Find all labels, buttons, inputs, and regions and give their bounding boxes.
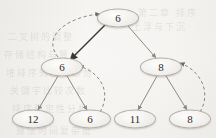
tree-node-root: 6	[97, 9, 139, 28]
tree-node-label: 11	[130, 114, 141, 125]
tree-node-n-rr: 8	[169, 110, 211, 129]
binary-tree-figure: 第二章 排序二叉树的调整存储结构与算法堆排序的基本思想关键字比较次数排序稳定性分…	[0, 0, 216, 138]
tree-node-n-rl: 11	[114, 110, 156, 129]
dashed-arrow-left-child-to-root	[53, 14, 100, 57]
tree-node-n-lr: 6	[69, 110, 111, 129]
tree-node-label: 6	[87, 114, 93, 125]
dashed-arrow-leaf8-to-right-child	[180, 63, 205, 112]
tree-node-n-ll: 12	[12, 110, 54, 129]
tree-node-label: 8	[187, 114, 193, 125]
tree-node-label: 6	[115, 13, 121, 24]
tree-node-n-l: 6	[41, 58, 83, 77]
tree-node-label: 12	[28, 114, 39, 125]
tree-node-n-r: 8	[140, 58, 182, 77]
dashed-arrow-leaf6-to-left-child	[79, 66, 105, 112]
tree-node-label: 6	[59, 62, 65, 73]
tree-node-label: 8	[158, 62, 164, 73]
